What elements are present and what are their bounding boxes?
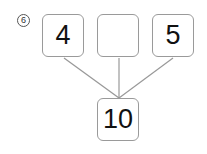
total-box: 10 (97, 98, 139, 141)
part-box-3: 5 (152, 14, 194, 57)
part-box-1: 4 (42, 14, 84, 57)
problem-number: 6 (17, 14, 30, 27)
part-box-blank[interactable] (97, 14, 139, 57)
